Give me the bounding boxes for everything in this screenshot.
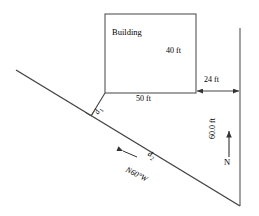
- building-width-label: 50 ft: [136, 95, 151, 103]
- vertical-distance-label: 60.0 ft: [209, 118, 217, 139]
- building-height-label: 40 ft: [166, 47, 181, 55]
- north-label: N: [224, 158, 230, 167]
- building-label: Building: [112, 28, 142, 37]
- bearing-direction-arrow-icon: [123, 151, 137, 157]
- property-line-diagonal: [16, 70, 240, 206]
- building-rectangle: [105, 14, 196, 93]
- offset-distance-label: 24 ft: [204, 76, 219, 84]
- diagram-canvas: Building 40 ft 50 ft 24 ft 60.0 ft N d1 …: [0, 0, 259, 216]
